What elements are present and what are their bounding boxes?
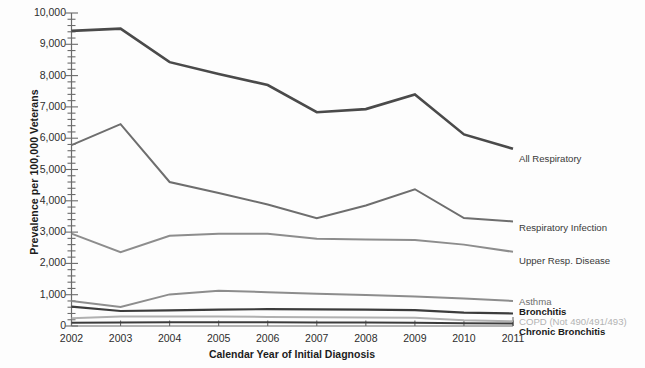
series-line-bronchitis xyxy=(72,307,514,314)
series-line-all-respiratory xyxy=(72,29,514,149)
series-line-upper-resp-disease xyxy=(72,234,514,252)
axis-lines xyxy=(65,13,513,326)
series-line-copd-not-490-491-493 xyxy=(72,317,514,322)
series-lines xyxy=(72,29,514,324)
series-line-respiratory-infection xyxy=(72,124,514,221)
legend-label: Chronic Bronchitis xyxy=(519,327,605,337)
legend-label: Upper Resp. Disease xyxy=(519,256,610,266)
legend-label: Respiratory Infection xyxy=(519,223,607,233)
legend-label: All Respiratory xyxy=(519,154,581,164)
series-line-asthma xyxy=(72,291,514,307)
prevalence-line-chart: Prevalence per 100,000 Veterans Calendar… xyxy=(0,0,645,368)
series-line-chronic-bronchitis xyxy=(72,322,514,323)
